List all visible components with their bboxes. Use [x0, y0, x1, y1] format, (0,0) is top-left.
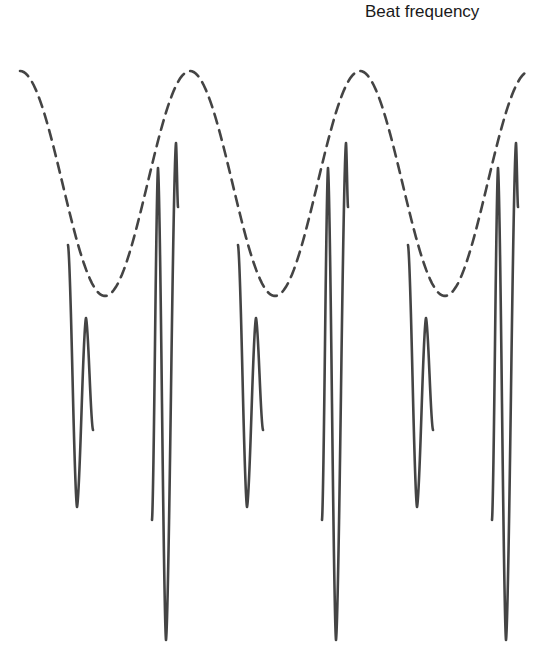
waveform-group [68, 143, 518, 640]
waveform-short-burst-2 [238, 245, 263, 507]
waveform-tall-burst-1 [152, 143, 178, 640]
waveform-tall-burst-2 [322, 143, 348, 640]
waveform-tall-burst-3 [492, 143, 518, 640]
waveform-short-burst-3 [408, 245, 433, 507]
envelope-curve [20, 71, 528, 296]
beat-frequency-diagram [0, 0, 558, 649]
waveform-short-burst-1 [68, 245, 93, 507]
